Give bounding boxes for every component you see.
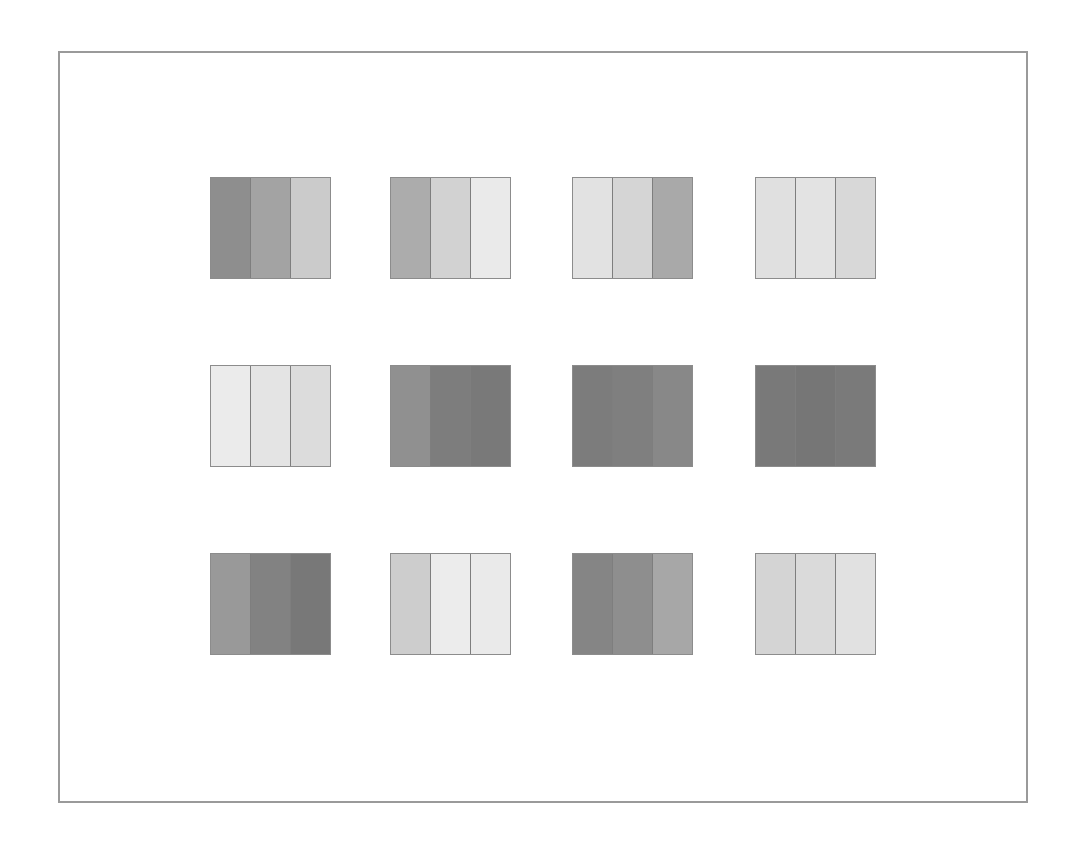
- swatch-stripe-2: [430, 554, 470, 654]
- swatch-stripe-3: [652, 366, 692, 466]
- color-swatch-r2-c1: [210, 365, 331, 467]
- swatch-stripe-3: [290, 178, 330, 278]
- color-swatch-r2-c3: [572, 365, 693, 467]
- swatch-stripe-1: [573, 554, 612, 654]
- color-swatch-r1-c3: [572, 177, 693, 279]
- swatch-stripe-3: [652, 178, 692, 278]
- swatch-stripe-1: [211, 554, 250, 654]
- swatch-stripe-2: [612, 366, 652, 466]
- color-swatch-r3-c4: [755, 553, 876, 655]
- swatch-stripe-3: [470, 366, 510, 466]
- swatch-stripe-2: [430, 178, 470, 278]
- swatch-stripe-2: [430, 366, 470, 466]
- swatch-stripe-2: [612, 554, 652, 654]
- color-swatch-r2-c4: [755, 365, 876, 467]
- swatch-stripe-1: [573, 366, 612, 466]
- color-swatch-r1-c1: [210, 177, 331, 279]
- color-swatch-r1-c4: [755, 177, 876, 279]
- swatch-stripe-1: [211, 366, 250, 466]
- swatch-stripe-3: [652, 554, 692, 654]
- swatch-stripe-1: [756, 554, 795, 654]
- swatch-stripe-2: [612, 178, 652, 278]
- swatch-stripe-1: [756, 366, 795, 466]
- color-swatch-r3-c2: [390, 553, 511, 655]
- color-swatch-r2-c2: [390, 365, 511, 467]
- swatch-stripe-3: [290, 554, 330, 654]
- swatch-stripe-2: [250, 178, 290, 278]
- swatch-stripe-3: [835, 366, 875, 466]
- swatch-stripe-2: [795, 554, 835, 654]
- swatch-stripe-1: [211, 178, 250, 278]
- swatch-stripe-3: [470, 178, 510, 278]
- swatch-stripe-2: [250, 366, 290, 466]
- swatch-stripe-1: [391, 366, 430, 466]
- swatch-stripe-1: [391, 554, 430, 654]
- swatch-stripe-1: [391, 178, 430, 278]
- swatch-stripe-2: [250, 554, 290, 654]
- color-swatch-r3-c1: [210, 553, 331, 655]
- swatch-stripe-3: [290, 366, 330, 466]
- color-swatch-r3-c3: [572, 553, 693, 655]
- canvas-frame: [58, 51, 1028, 803]
- swatch-stripe-2: [795, 366, 835, 466]
- swatch-stripe-3: [470, 554, 510, 654]
- color-swatch-r1-c2: [390, 177, 511, 279]
- swatch-stripe-3: [835, 554, 875, 654]
- swatch-stripe-2: [795, 178, 835, 278]
- swatch-stripe-1: [573, 178, 612, 278]
- swatch-stripe-1: [756, 178, 795, 278]
- swatch-stripe-3: [835, 178, 875, 278]
